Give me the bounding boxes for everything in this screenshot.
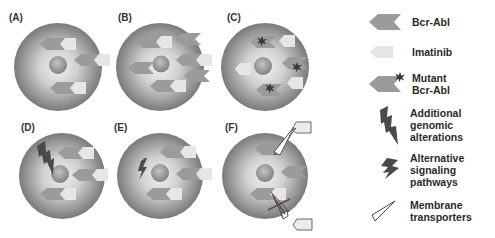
legend-line: Alternative: [410, 152, 464, 164]
nucleus: [256, 164, 274, 182]
bcr-abl-arrow-icon: [369, 14, 401, 30]
nucleus: [151, 164, 169, 182]
legend-line: signaling: [410, 164, 464, 176]
nucleus: [51, 165, 69, 183]
bcr-abl-imatinib-complex: [136, 36, 172, 48]
bcr-abl-imatinib-complex: [150, 80, 186, 92]
bcr-abl-imatinib-complex: [74, 54, 110, 66]
cell-panel-e: [117, 133, 212, 219]
bcr-abl-imatinib-complex: [146, 188, 182, 200]
cell-panel-b: [116, 23, 212, 111]
bcr-abl-imatinib-complex: [40, 188, 76, 200]
legend-line: alterations: [410, 131, 463, 143]
bcr-abl-imatinib-complex: [176, 54, 212, 66]
panel-label-b: (B): [118, 12, 132, 23]
nucleus: [153, 56, 170, 73]
legend-line: Mutant: [412, 72, 450, 84]
cell-panel-a: [14, 23, 110, 111]
bcr-abl-imatinib-complex: [58, 147, 94, 159]
legend-line: Additional: [410, 107, 463, 119]
bcr-abl-imatinib-complex: [50, 82, 86, 94]
panel-label-e: (E): [114, 122, 127, 133]
panel-label-d: (D): [21, 122, 35, 133]
legend-label-mutant-bcr-abl: Mutant Bcr-Abl: [412, 72, 450, 96]
cell-panel-f: [222, 122, 312, 230]
imatinib-external: [293, 219, 312, 230]
bcr-abl-imatinib-complex: [250, 188, 286, 200]
legend-icons: [369, 14, 405, 221]
bcr-abl-imatinib-complex: [40, 38, 76, 50]
legend-line: Bcr-Abl: [412, 16, 450, 28]
panel-label-f: (F): [225, 122, 238, 133]
bcr-abl-imatinib-complex: [160, 146, 196, 158]
bcr-abl-imatinib-complex: [72, 169, 108, 181]
legend-label-genomic-alterations: Additional genomic alterations: [410, 107, 463, 143]
legend-line: Imatinib: [412, 46, 452, 58]
legend-line: transporters: [410, 211, 472, 223]
nucleus: [49, 56, 67, 74]
lightning-genomic-icon: [380, 106, 398, 145]
cell-panel-d: [19, 133, 108, 219]
bcr-abl-imatinib-complex: [176, 168, 212, 180]
legend-label-membrane-transporters: Membrane transporters: [410, 199, 472, 223]
legend-line: Bcr-Abl: [412, 84, 450, 96]
imatinib-icon: [370, 46, 393, 58]
legend-label-imatinib: Imatinib: [412, 46, 452, 58]
legend-label-bcr-abl: Bcr-Abl: [412, 16, 450, 28]
panel-label-a: (A): [9, 12, 23, 23]
lightning-signaling-icon: [381, 158, 399, 179]
transporter-cone-icon: [372, 201, 395, 221]
nucleus: [254, 57, 272, 75]
panel-label-c: (C): [227, 12, 241, 23]
cell-panel-c: [221, 23, 309, 111]
legend-line: genomic: [410, 119, 463, 131]
legend-line: pathways: [410, 176, 464, 188]
legend-line: Membrane: [410, 199, 472, 211]
legend-label-signaling-pathways: Alternative signaling pathways: [410, 152, 464, 188]
